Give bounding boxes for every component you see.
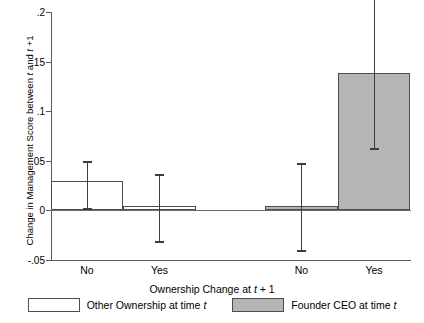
error-bar [154,174,166,243]
y-axis-tick [46,62,51,63]
legend-label-other-ownership: Other Ownership at time t [87,299,207,311]
error-bar-cap-upper [155,174,164,176]
legend: Other Ownership at time t Founder CEO at… [0,298,424,312]
error-bar-stem [374,0,375,150]
zero-reference-line [51,210,411,211]
legend-swatch-other-ownership [28,298,80,312]
y-axis-tick-label: -.05 [28,255,45,266]
legend-label-other-ownership-italic-t: t [203,299,206,311]
y-axis-tick [46,260,51,261]
legend-item-founder-ceo: Founder CEO at time t [232,298,396,312]
error-bar-stem [301,163,302,252]
x-axis-tick-label: No [80,264,93,276]
y-axis-tick-label: .15 [31,56,45,67]
error-bar-stem [87,161,88,210]
legend-swatch-founder-ceo [232,298,284,312]
error-bar [368,0,380,150]
error-bar-cap-lower [83,208,92,210]
y-axis-line [51,12,52,260]
legend-label-other-ownership-pre: Other Ownership at time [87,299,204,311]
legend-label-founder-ceo: Founder CEO at time t [291,299,396,311]
legend-label-founder-ceo-pre: Founder CEO at time [291,299,393,311]
x-axis-title-pre: Ownership Change at [149,283,253,295]
y-axis-tick-label: .1 [37,106,45,117]
y-axis-title-italic-t1: t [24,73,35,76]
bar-chart-figure: Change in Management Score between t and… [0,0,424,323]
y-axis-title: Change in Management Score between t and… [24,16,35,266]
y-axis-tick [46,12,51,13]
plot-area [51,12,411,260]
legend-label-founder-ceo-italic-t: t [393,299,396,311]
y-axis-tick [46,111,51,112]
error-bar [81,161,93,210]
error-bar-cap-lower [370,148,379,150]
error-bar [296,163,308,252]
x-axis-title: Ownership Change at t + 1 [0,283,424,295]
y-axis-tick-label: .2 [37,7,45,18]
error-bar-cap-upper [297,163,306,165]
y-axis-tick [46,210,51,211]
y-axis-tick-label: .05 [31,155,45,166]
legend-item-other-ownership: Other Ownership at time t [28,298,207,312]
x-axis-tick-label: No [295,264,308,276]
x-axis-line [51,260,411,261]
x-axis-title-post: + 1 [257,283,275,295]
y-axis-tick [46,161,51,162]
x-axis-tick-label: Yes [151,264,168,276]
error-bar-stem [159,174,160,243]
y-axis-title-italic-t2: t [24,49,35,52]
error-bar-cap-lower [155,241,164,243]
y-axis-title-post: +1 [24,36,35,49]
x-axis-tick-label: Yes [365,264,382,276]
y-axis-tick-label: 0 [39,205,45,216]
error-bar-cap-upper [83,161,92,163]
error-bar-cap-lower [297,250,306,252]
